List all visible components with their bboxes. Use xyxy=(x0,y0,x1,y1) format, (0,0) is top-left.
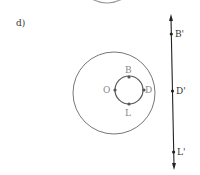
arrow-up-icon xyxy=(169,14,173,21)
label-b: B xyxy=(125,65,132,75)
inner-circle xyxy=(115,76,143,104)
label-l: L xyxy=(125,108,131,118)
label-l-prime: L' xyxy=(177,147,185,157)
label-d-prime: D' xyxy=(176,86,186,96)
point-o xyxy=(113,88,116,91)
point-l-prime xyxy=(172,150,175,153)
label-d: D xyxy=(145,85,152,95)
part-label: d) xyxy=(16,18,25,28)
arrow-down-icon xyxy=(172,163,176,170)
diagram-canvas: d) B O D L B' D' L' xyxy=(0,0,200,175)
point-b xyxy=(127,75,130,78)
point-l xyxy=(127,102,130,105)
label-b-prime: B' xyxy=(175,29,184,39)
point-d-prime xyxy=(171,89,174,92)
point-b-prime xyxy=(170,32,173,35)
top-arc-fragment xyxy=(90,0,124,3)
label-o: O xyxy=(103,85,110,95)
